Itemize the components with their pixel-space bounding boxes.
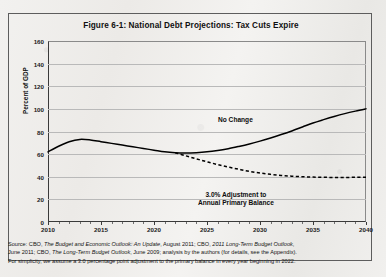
x-tick-minor — [271, 222, 272, 224]
source-text-4: June 2011; CBO, — [8, 249, 52, 255]
source-note-line-1: Source: CBO, The Budget and Economic Out… — [8, 240, 366, 248]
y-tick-label: 120 — [34, 83, 44, 90]
x-tick-minor — [133, 222, 134, 224]
x-tick-minor — [249, 222, 250, 224]
x-tick-label: 2025 — [200, 226, 214, 233]
x-tick-minor — [196, 222, 197, 224]
x-tick-minor — [324, 222, 325, 224]
x-tick-minor — [80, 222, 81, 224]
x-tick-major — [101, 222, 102, 225]
x-tick-minor — [69, 222, 70, 224]
y-tick-label: 60 — [37, 151, 44, 158]
annotation-adjustment: 3.0% Adjustment to Annual Primary Balanc… — [198, 191, 274, 207]
source-note-line-3: For simplicity, we assume a 3.0 percenta… — [8, 257, 366, 265]
x-tick-minor — [186, 222, 187, 224]
x-tick-major — [366, 222, 367, 225]
y-tick-label: 0 — [41, 219, 44, 226]
x-tick-label: 2030 — [253, 226, 267, 233]
y-tick-label: 140 — [34, 60, 44, 67]
y-tick-label: 20 — [37, 196, 44, 203]
x-tick-minor — [122, 222, 123, 224]
source-label: Source: — [8, 241, 27, 247]
x-tick-minor — [345, 222, 346, 224]
annotation-adjustment-line2: Annual Primary Balance — [198, 199, 274, 207]
x-tick-minor — [292, 222, 293, 224]
page-title: Figure 6-1: National Debt Projections: T… — [9, 21, 373, 30]
y-tick-label: 100 — [34, 105, 44, 112]
x-tick-minor — [112, 222, 113, 224]
x-tick-label: 2010 — [41, 226, 55, 233]
x-tick-minor — [165, 222, 166, 224]
x-tick-minor — [355, 222, 356, 224]
x-tick-major — [48, 222, 49, 225]
source-title-3: The Long-Term Budget Outlook — [52, 249, 130, 255]
y-tick-label: 40 — [37, 173, 44, 180]
source-text: CBO, — [27, 241, 44, 247]
source-footnote: For simplicity, we assume a 3.0 percenta… — [8, 258, 296, 264]
x-tick-major — [313, 222, 314, 225]
x-tick-label: 2015 — [94, 226, 108, 233]
source-text-3: , — [293, 241, 295, 247]
series-line-no-change — [48, 109, 366, 153]
y-axis-label: Percent of GDP — [22, 67, 29, 114]
annotation-no-change: No Change — [218, 116, 253, 124]
figure-frame: Figure 6-1: National Debt Projections: T… — [8, 13, 372, 261]
x-tick-label: 2035 — [306, 226, 320, 233]
x-tick-label: 2040 — [359, 226, 373, 233]
x-tick-minor — [143, 222, 144, 224]
annotation-adjustment-line1: 3.0% Adjustment to — [198, 191, 274, 199]
x-tick-minor — [239, 222, 240, 224]
x-tick-minor — [175, 222, 176, 224]
x-tick-minor — [228, 222, 229, 224]
x-tick-minor — [218, 222, 219, 224]
source-title-1: The Budget and Economic Outlook: An Upda… — [44, 241, 160, 247]
source-note-line-2: June 2011; CBO, The Long-Term Budget Out… — [8, 248, 366, 256]
plot-area: 020406080100120140160 201020152020202520… — [48, 41, 366, 222]
source-text-2: , August 2011; CBO, — [160, 241, 212, 247]
series-line-adjustment — [175, 153, 366, 178]
x-tick-major — [260, 222, 261, 225]
x-tick-minor — [59, 222, 60, 224]
y-tick-label: 80 — [37, 128, 44, 135]
x-tick-major — [207, 222, 208, 225]
x-tick-minor — [281, 222, 282, 224]
x-tick-label: 2020 — [147, 226, 161, 233]
x-tick-minor — [334, 222, 335, 224]
y-tick-label: 160 — [34, 38, 44, 45]
x-tick-major — [154, 222, 155, 225]
source-title-2: 2011 Long-Term Budget Outlook — [212, 241, 293, 247]
source-text-5: , June 2009; analysis by the authors (fo… — [130, 249, 297, 255]
source-note: Source: CBO, The Budget and Economic Out… — [8, 240, 366, 265]
x-tick-minor — [302, 222, 303, 224]
x-tick-minor — [90, 222, 91, 224]
